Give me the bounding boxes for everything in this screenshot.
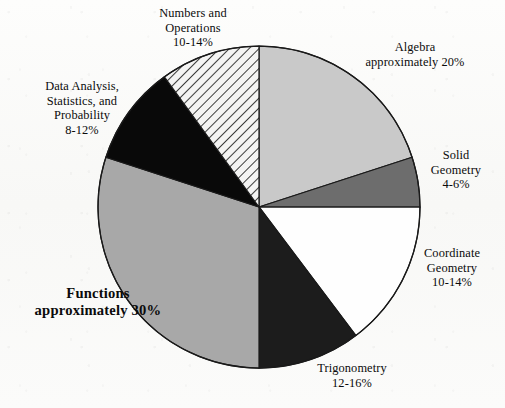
label-line-2: Geometry	[413, 163, 499, 178]
label-line-2: approximately 20%	[329, 55, 501, 70]
label-line-2: Statistics, and	[19, 94, 145, 109]
label-line-3: 10-14%	[130, 35, 256, 50]
slice-label-solid-geometry: Solid Geometry 4-6%	[413, 148, 499, 192]
label-line-3: Probability	[19, 108, 145, 123]
label-line-1: Coordinate	[402, 246, 502, 261]
label-line-4: 8-12%	[19, 123, 145, 138]
label-line-1: Data Analysis,	[19, 79, 145, 94]
label-line-2: Operations	[130, 21, 256, 36]
label-line-3: 4-6%	[413, 177, 499, 192]
pie-slice-group	[98, 46, 420, 368]
label-line-1: Trigonometry	[296, 361, 408, 376]
slice-label-data-analysis: Data Analysis, Statistics, and Probabili…	[19, 79, 145, 138]
slice-label-trigonometry: Trigonometry 12-16%	[296, 361, 408, 390]
label-line-1: Algebra	[329, 40, 501, 55]
label-line-2: Geometry	[402, 261, 502, 276]
pie-chart-page: Numbers and Operations 10-14% Algebra ap…	[0, 0, 505, 408]
label-line-2: 12-16%	[296, 376, 408, 391]
label-line-1: Numbers and	[130, 6, 256, 21]
label-line-2: approximately 30%	[3, 302, 193, 319]
slice-label-coordinate-geometry: Coordinate Geometry 10-14%	[402, 246, 502, 290]
label-line-1: Functions	[3, 285, 193, 302]
label-line-3: 10-14%	[402, 275, 502, 290]
slice-label-functions: Functions approximately 30%	[3, 285, 193, 319]
slice-label-numbers-and-operations: Numbers and Operations 10-14%	[130, 6, 256, 50]
label-line-1: Solid	[413, 148, 499, 163]
slice-label-algebra: Algebra approximately 20%	[329, 40, 501, 69]
